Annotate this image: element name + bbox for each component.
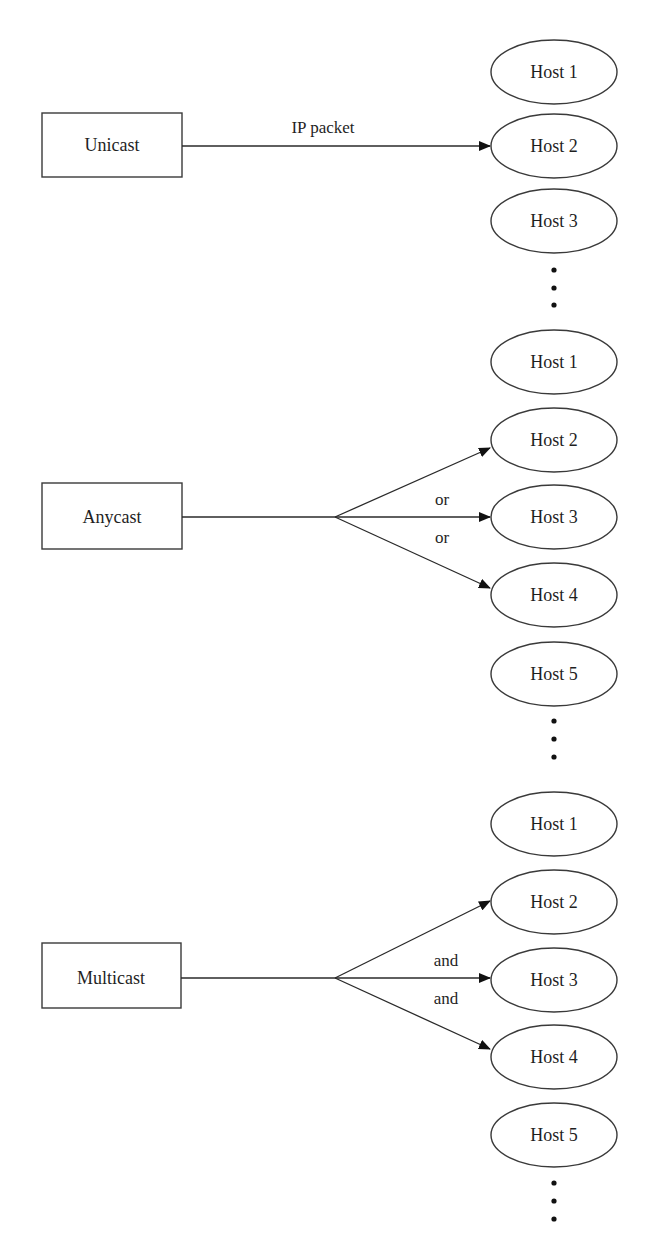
multicast-host-2: Host 2 — [491, 870, 617, 934]
host-label: Host 1 — [530, 62, 578, 82]
unicast-host-3: Host 3 — [491, 189, 617, 253]
multicast-host-1: Host 1 — [491, 792, 617, 856]
anycast-section: Anycast or or Host 1 Host 2 Host 3 Host … — [42, 330, 617, 760]
multicast-host-5: Host 5 — [491, 1103, 617, 1167]
unicast-host-2: Host 2 — [491, 114, 617, 178]
host-label: Host 5 — [530, 1125, 578, 1145]
anycast-host-2: Host 2 — [491, 408, 617, 472]
unicast-host-1: Host 1 — [491, 40, 617, 104]
host-label: Host 5 — [530, 664, 578, 684]
anycast-source-label: Anycast — [83, 507, 142, 527]
anycast-ellipsis-dots — [551, 718, 556, 759]
anycast-source-box: Anycast — [42, 483, 182, 549]
host-label: Host 2 — [530, 136, 578, 156]
unicast-source-label: Unicast — [85, 135, 140, 155]
multicast-host-3: Host 3 — [491, 948, 617, 1012]
multicast-arrow-to-host-4 — [335, 978, 490, 1049]
multicast-source-label: Multicast — [77, 968, 145, 988]
multicast-and-label-2: and — [434, 989, 459, 1008]
multicast-source-box: Multicast — [42, 943, 181, 1008]
unicast-source-box: Unicast — [42, 113, 182, 177]
multicast-and-label-1: and — [434, 951, 459, 970]
anycast-or-label-1: or — [435, 490, 450, 509]
anycast-host-4: Host 4 — [491, 563, 617, 627]
addressing-modes-diagram: Unicast IP packet Host 1 Host 2 Host 3 A… — [0, 0, 656, 1252]
host-label: Host 1 — [530, 352, 578, 372]
host-label: Host 3 — [530, 970, 578, 990]
host-label: Host 2 — [530, 892, 578, 912]
host-label: Host 4 — [530, 1047, 578, 1067]
anycast-host-5: Host 5 — [491, 642, 617, 706]
multicast-host-4: Host 4 — [491, 1025, 617, 1089]
unicast-section: Unicast IP packet Host 1 Host 2 Host 3 — [42, 40, 617, 308]
ip-packet-label: IP packet — [291, 118, 354, 137]
multicast-arrow-to-host-2 — [335, 901, 490, 978]
host-label: Host 2 — [530, 430, 578, 450]
host-label: Host 3 — [530, 211, 578, 231]
multicast-section: Multicast and and Host 1 Host 2 Host 3 H… — [42, 792, 617, 1222]
anycast-or-label-2: or — [435, 528, 450, 547]
host-label: Host 1 — [530, 814, 578, 834]
unicast-ellipsis-dots — [551, 267, 556, 307]
anycast-arrow-to-host-4 — [335, 517, 490, 588]
host-label: Host 3 — [530, 507, 578, 527]
host-label: Host 4 — [530, 585, 578, 605]
anycast-arrow-to-host-2 — [335, 448, 490, 517]
anycast-host-3: Host 3 — [491, 485, 617, 549]
multicast-ellipsis-dots — [551, 1180, 556, 1221]
anycast-host-1: Host 1 — [491, 330, 617, 394]
